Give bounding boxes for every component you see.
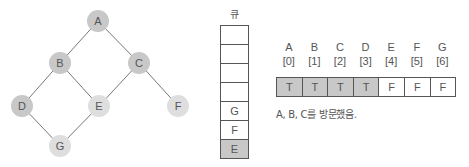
node-A: A [87,10,109,32]
node-G: G [49,135,71,157]
array-node-name: A [276,40,302,54]
node-label: A [94,15,102,27]
array-label: B[1] [302,40,328,68]
queue-cell: F [221,121,248,140]
array-node-name: D [353,40,379,54]
array-index: [3] [353,54,379,68]
array-cell: F [405,78,431,96]
array-cell: T [328,78,354,96]
node-B: B [49,52,71,74]
array-label: E[4] [378,40,404,68]
node-D: D [11,95,33,117]
queue-cell [221,83,248,102]
array-node-name: E [378,40,404,54]
array-index: [4] [378,54,404,68]
caption: A, B, C를 방문했음. [276,106,357,121]
node-label: D [18,100,26,112]
queue-cell [221,64,248,83]
array-index: [6] [430,54,456,68]
node-label: C [135,57,143,69]
array-node-name: F [404,40,430,54]
graph-nodes: ABCDEFG [11,10,189,157]
array-label: D[3] [353,40,379,68]
array-node-name: B [302,40,328,54]
queue-cell: E [221,140,248,159]
node-C: C [128,52,150,74]
queue: GFE [220,25,249,159]
array-cell: T [354,78,380,96]
queue-cell: G [221,102,248,121]
array-node-name: C [327,40,353,54]
array-index: [1] [302,54,328,68]
array-node-name: G [430,40,456,54]
graph-edges [22,21,178,146]
array-index: [2] [327,54,353,68]
queue-title: 큐 [220,6,248,21]
visited-array-labels: A[0]B[1]C[2]D[3]E[4]F[5]G[6] [276,40,455,68]
queue-cell [221,26,248,45]
node-F: F [167,95,189,117]
array-label: A[0] [276,40,302,68]
array-index: [5] [404,54,430,68]
array-label: C[2] [327,40,353,68]
node-label: G [56,140,65,152]
array-cell: F [431,78,457,96]
array-label: G[6] [430,40,456,68]
node-label: F [175,100,182,112]
array-index: [0] [276,54,302,68]
graph-diagram: ABCDEFG [0,0,210,167]
array-cell: T [303,78,329,96]
node-label: E [95,100,102,112]
array-cell: T [277,78,303,96]
array-label: F[5] [404,40,430,68]
visited-array: TTTTFFF [276,77,456,97]
queue-cell [221,45,248,64]
node-label: B [56,57,63,69]
array-cell: F [379,78,405,96]
node-E: E [88,95,110,117]
